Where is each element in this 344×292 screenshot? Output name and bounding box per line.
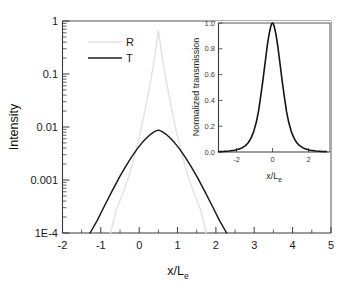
inset-y-ticklabel-5: 1.0 bbox=[205, 19, 215, 28]
inset-y-ticklabels: 0.0 0.2 0.4 0.6 0.8 1.0 bbox=[205, 19, 215, 157]
inset-x-ticklabels: -2 0 2 bbox=[233, 155, 310, 164]
inset-x-axis-label-sub: e bbox=[278, 176, 282, 183]
inset-y-axis-label: Normalized transmission bbox=[191, 38, 201, 137]
inset-x-ticklabel-0: -2 bbox=[233, 155, 240, 164]
series-T-line bbox=[90, 130, 227, 233]
inset-y-ticklabel-3: 0.6 bbox=[205, 70, 215, 79]
main-y-axis-label: Intensity bbox=[7, 103, 21, 150]
x-ticklabel-0: -2 bbox=[58, 239, 68, 251]
x-ticklabel-1: -1 bbox=[96, 239, 106, 251]
inset-x-ticklabel-2: 2 bbox=[306, 155, 310, 164]
legend-label-R: R bbox=[126, 36, 134, 48]
svg-text:x/Le: x/Le bbox=[167, 264, 189, 281]
x-ticklabel-3: 1 bbox=[174, 239, 180, 251]
inset-y-ticklabel-2: 0.4 bbox=[205, 96, 215, 105]
inset-y-ticklabel-0: 0.0 bbox=[205, 148, 215, 157]
figure-container: 1E-4 0.001 0.01 0.1 1 -2 -1 bbox=[0, 0, 344, 292]
y-ticklabel-3: 0.1 bbox=[43, 68, 58, 80]
legend-label-T: T bbox=[126, 52, 133, 64]
inset-plot: 0.0 0.2 0.4 0.6 0.8 1.0 -2 0 2 Normalize… bbox=[191, 19, 331, 183]
inset-y-ticklabel-4: 0.8 bbox=[205, 44, 215, 53]
y-ticklabel-0: 1E-4 bbox=[35, 227, 58, 239]
chart-svg: 1E-4 0.001 0.01 0.1 1 -2 -1 bbox=[0, 0, 344, 292]
svg-text:x/Le: x/Le bbox=[266, 171, 282, 183]
x-ticklabel-4: 2 bbox=[213, 239, 219, 251]
inset-x-axis-label: x/Le bbox=[266, 171, 282, 183]
legend: R T bbox=[88, 36, 134, 64]
main-x-axis-label-sub: e bbox=[184, 271, 189, 281]
y-ticklabel-2: 0.01 bbox=[37, 121, 58, 133]
y-ticklabel-4: 1 bbox=[52, 15, 58, 27]
main-x-axis-label-base: x/L bbox=[167, 264, 184, 278]
x-ticklabel-5: 3 bbox=[251, 239, 257, 251]
main-x-ticks bbox=[63, 227, 332, 233]
main-y-ticks bbox=[63, 21, 70, 233]
main-y-ticklabels: 1E-4 0.001 0.01 0.1 1 bbox=[30, 15, 58, 239]
inset-x-ticklabel-1: 0 bbox=[270, 155, 274, 164]
main-x-ticklabels: -2 -1 0 1 2 3 4 5 bbox=[58, 239, 334, 251]
main-x-axis-label: x/Le bbox=[167, 264, 189, 281]
y-ticklabel-1: 0.001 bbox=[30, 174, 58, 186]
inset-x-axis-label-base: x/L bbox=[266, 171, 278, 181]
x-ticklabel-7: 5 bbox=[328, 239, 334, 251]
x-ticklabel-6: 4 bbox=[290, 239, 296, 251]
inset-background bbox=[216, 21, 331, 151]
x-ticklabel-2: 0 bbox=[136, 239, 142, 251]
inset-y-ticklabel-1: 0.2 bbox=[205, 122, 215, 131]
